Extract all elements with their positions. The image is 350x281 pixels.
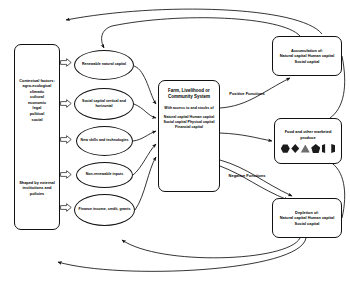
block-arrow-5: [60, 203, 72, 212]
negative-functions-label: Negative Functions: [226, 168, 268, 184]
accumulation-box: Accumulation of: Natural capital Human c…: [272, 36, 342, 76]
accumulation-items: Natural capital Human capital Social cap…: [275, 53, 339, 64]
input-social-capital: Social capital vertical and horizontal: [74, 88, 134, 120]
ctx-line-8: social: [17, 117, 57, 123]
block-arrow-3: [60, 135, 72, 144]
block-arrow-2: [60, 99, 72, 108]
diamond-icon: [291, 144, 299, 153]
centre-heading: Farm, Livelihood or Community System: [161, 88, 217, 101]
pentagon-icon: [311, 144, 320, 153]
input-label: New skills and technologies: [81, 138, 129, 143]
ctx-line-2: agro-ecological: [17, 83, 57, 89]
farm-livelihood-community-system-box: Farm, Livelihood or Community System Wit…: [158, 80, 220, 192]
input-new-skills-technologies: New skills and technologies: [76, 126, 133, 156]
positive-functions-text: Positive Functions: [229, 91, 265, 97]
positive-functions-label: Positive Functions: [226, 86, 268, 102]
input-finance: Finance income, credit, grants: [74, 194, 135, 226]
split-shape-icon: [322, 144, 330, 153]
shaped-by-text: Shaped by external institutions and poli…: [17, 180, 57, 197]
triangle-icon: [301, 145, 310, 153]
input-label: Finance income, credit, grants: [79, 207, 131, 212]
input-label: Non-renewable inputs: [86, 172, 124, 177]
depletion-box: Depletion of: Natural capital Human capi…: [272, 198, 342, 238]
accumulation-content: Accumulation of: Natural capital Human c…: [275, 48, 339, 65]
produce-glyph-row: [281, 144, 336, 153]
centre-subheading: With access to and stocks of: [164, 106, 213, 111]
hexagon-icon: [281, 144, 290, 153]
depletion-items: Natural capital Human capital Social cap…: [275, 215, 339, 226]
food-produce-box: Food and other marketed produce: [274, 118, 342, 164]
negative-functions-text: Negative Functions: [229, 173, 266, 179]
contextual-factors-list: Contextual factors: agro-ecological clim…: [17, 78, 57, 122]
diagram-canvas: Contextual factors: agro-ecological clim…: [0, 0, 350, 281]
depletion-content: Depletion of: Natural capital Human capi…: [275, 210, 339, 227]
block-arrow-4: [60, 170, 72, 179]
input-renewable-natural-capital: Renewable natural capital: [74, 50, 134, 80]
food-produce-title: Food and other marketed produce: [277, 129, 339, 140]
contextual-factors-box: Contextual factors: agro-ecological clim…: [14, 44, 60, 230]
input-label: Social capital vertical and horizontal: [75, 99, 133, 109]
input-non-renewable-inputs: Non-renewable inputs: [76, 162, 133, 188]
input-label: Renewable natural capital: [82, 62, 126, 67]
block-arrow-1: [60, 58, 72, 67]
centre-capitals-list: Natural capital Human capital Social cap…: [161, 115, 217, 131]
split-shape-icon-right: [331, 144, 335, 153]
